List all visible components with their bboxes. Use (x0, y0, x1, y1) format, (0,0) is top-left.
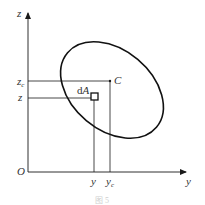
dA-label: dA (77, 84, 90, 96)
origin-label: O (17, 165, 25, 177)
centroid-diagram: z y O zc z y yc C dA 图 5 (0, 0, 205, 205)
centroid-point (109, 80, 111, 82)
area-element-dA (91, 93, 98, 100)
y-label: y (90, 175, 96, 187)
centroid-label: C (114, 74, 122, 86)
z-label: z (17, 91, 23, 103)
y-axis-label: y (185, 175, 191, 187)
area-region (42, 22, 182, 158)
yc-label: yc (105, 175, 115, 189)
figure-caption: 图 5 (95, 196, 109, 205)
zc-label: zc (16, 75, 25, 89)
z-axis-label: z (16, 7, 22, 19)
